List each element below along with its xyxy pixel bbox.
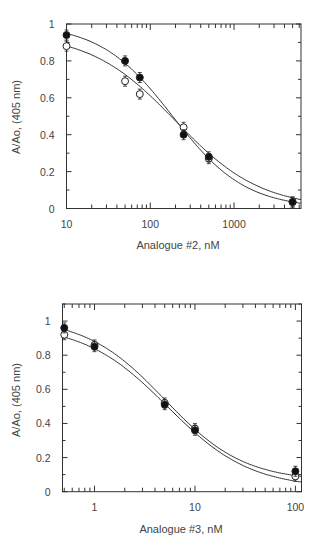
y-axis-label: A/Ao, (405 nm) (10, 363, 22, 437)
y-tick-label: 0.2 (36, 452, 51, 464)
y-tick-label: 1 (45, 315, 51, 327)
x-tick-label: 10 (189, 501, 201, 513)
plot-area: 00.20.40.60.81110100 (36, 304, 304, 513)
data-point-filled (91, 343, 98, 350)
y-tick-label: 0.4 (36, 417, 51, 429)
plot-frame (63, 304, 302, 492)
data-point-filled (61, 324, 68, 331)
data-point-filled (292, 468, 299, 475)
x-tick-label: 100 (287, 501, 305, 513)
x-tick-label: 1 (92, 501, 98, 513)
data-point-filled (161, 401, 168, 408)
fit-curve (63, 329, 302, 476)
chart-analogue-3: 00.20.40.60.81110100 Analogue #3, nM A/A… (0, 0, 320, 554)
x-axis-label: Analogue #3, nM (139, 523, 222, 535)
fit-curve (63, 337, 302, 482)
y-tick-label: 0 (45, 486, 51, 498)
data-point-filled (191, 427, 198, 434)
y-tick-label: 0.8 (36, 349, 51, 361)
y-tick-label: 0.6 (36, 383, 51, 395)
